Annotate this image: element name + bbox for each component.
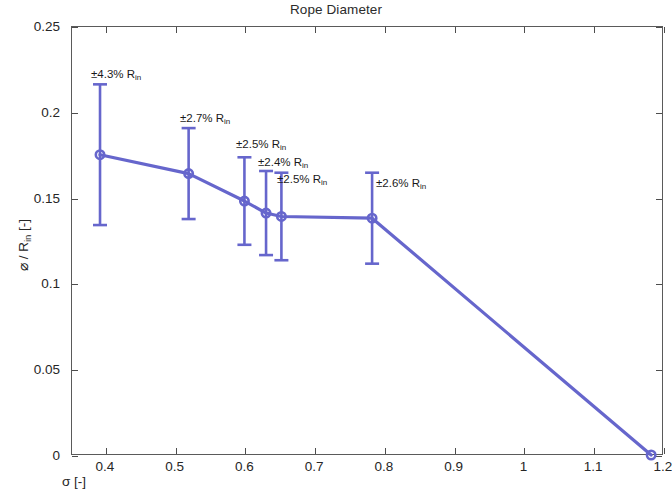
y-tick xyxy=(72,113,78,114)
chart-figure: Rope Diameter 0.40.50.60.70.80.911.11.2 … xyxy=(0,0,672,500)
y-tick-label: 0.25 xyxy=(0,19,60,34)
x-tick-top xyxy=(524,27,525,33)
x-tick xyxy=(106,448,107,454)
x-tick xyxy=(315,448,316,454)
y-tick-label: 0.05 xyxy=(0,362,60,377)
error-percent-subscript: in xyxy=(280,143,286,152)
x-tick xyxy=(524,448,525,454)
error-percent-label: ±2.4% Rin xyxy=(258,157,308,170)
x-axis-label: σ [-] xyxy=(62,474,86,489)
x-axis-label-unit: [-] xyxy=(74,474,86,489)
y-tick-label: 0 xyxy=(0,448,60,463)
y-axis-label-subscript: in xyxy=(22,235,33,242)
x-tick xyxy=(594,448,595,454)
x-tick-label: 0.6 xyxy=(235,459,254,474)
y-tick xyxy=(72,284,78,285)
chart-title: Rope Diameter xyxy=(0,2,672,17)
y-tick-right xyxy=(656,113,662,114)
x-tick-label: 1.2 xyxy=(654,459,672,474)
x-tick-top xyxy=(664,27,665,33)
error-percent-subscript: in xyxy=(420,182,426,191)
x-tick-top xyxy=(245,27,246,33)
x-tick xyxy=(455,448,456,454)
x-tick-label: 0.5 xyxy=(165,459,184,474)
error-percent-label: ±2.6% Rin xyxy=(376,178,426,191)
error-percent-label: ±4.3% Rin xyxy=(91,69,141,82)
x-tick-top xyxy=(106,27,107,33)
x-axis-label-text: σ xyxy=(62,474,70,489)
x-tick-top xyxy=(176,27,177,33)
error-percent-label: ±2.5% Rin xyxy=(277,174,327,187)
error-percent-text: ±2.5% R xyxy=(236,138,280,150)
error-percent-subscript: in xyxy=(224,117,230,126)
x-tick-label: 0.4 xyxy=(96,459,115,474)
error-percent-label: ±2.5% Rin xyxy=(236,139,286,152)
x-tick-label: 1.1 xyxy=(584,459,603,474)
error-percent-text: ±2.7% R xyxy=(180,112,224,124)
x-tick xyxy=(245,448,246,454)
x-tick-top xyxy=(385,27,386,33)
y-tick xyxy=(72,370,78,371)
y-tick-right xyxy=(656,284,662,285)
error-percent-subscript: in xyxy=(302,161,308,170)
x-tick-label: 0.8 xyxy=(375,459,394,474)
y-tick-right xyxy=(656,370,662,371)
y-axis-label-text: ⌀ / R xyxy=(16,242,31,271)
x-tick-label: 1 xyxy=(520,459,528,474)
y-axis-label-unit: [-] xyxy=(16,219,31,231)
y-tick xyxy=(72,27,78,28)
x-tick-top xyxy=(455,27,456,33)
y-tick xyxy=(72,456,78,457)
plot-area xyxy=(71,26,663,455)
y-tick-right xyxy=(656,27,662,28)
error-percent-subscript: in xyxy=(321,178,327,187)
y-axis-label: ⌀ / Rin [-] xyxy=(15,185,33,305)
y-tick-label: 0.2 xyxy=(0,104,60,119)
y-tick-right xyxy=(656,199,662,200)
x-tick xyxy=(385,448,386,454)
x-tick xyxy=(176,448,177,454)
error-percent-text: ±2.4% R xyxy=(258,156,302,168)
x-tick-top xyxy=(315,27,316,33)
error-percent-subscript: in xyxy=(135,73,141,82)
x-tick-top xyxy=(594,27,595,33)
error-percent-text: ±4.3% R xyxy=(91,68,135,80)
error-percent-label: ±2.7% Rin xyxy=(180,113,230,126)
y-tick xyxy=(72,199,78,200)
x-tick-label: 0.9 xyxy=(444,459,463,474)
error-percent-text: ±2.6% R xyxy=(376,177,420,189)
error-percent-text: ±2.5% R xyxy=(277,173,321,185)
x-tick-label: 0.7 xyxy=(305,459,324,474)
x-tick xyxy=(664,448,665,454)
y-tick-right xyxy=(656,456,662,457)
